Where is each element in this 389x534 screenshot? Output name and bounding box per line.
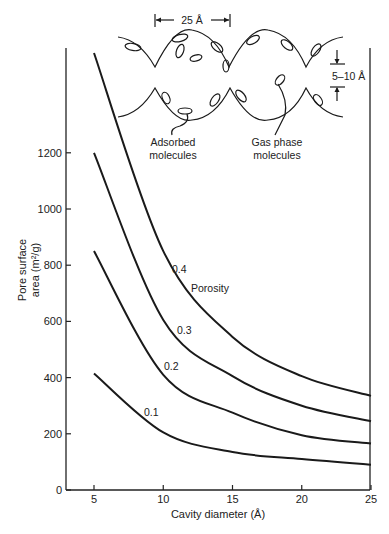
x-ticks: 510152025: [91, 485, 377, 505]
molecule-ellipse: [234, 88, 248, 103]
y-tick-label: 1200: [38, 147, 62, 159]
axes: [66, 48, 370, 490]
gas-label-line1: Gas phase: [252, 136, 303, 148]
molecule-ellipse: [189, 54, 202, 63]
cavity-bottom-wall: [118, 88, 343, 120]
curves: [94, 53, 371, 465]
y-tick-label: 800: [44, 259, 62, 271]
curve-porosity-0.3: [94, 153, 371, 421]
x-tick-label: 10: [157, 493, 169, 505]
molecule-ellipse: [178, 108, 192, 114]
adsorbed-leader-line: [172, 114, 188, 135]
gas-label-line2: molecules: [253, 149, 300, 161]
x-axis-title: Cavity diameter (Å): [171, 508, 265, 520]
molecule-ellipse: [174, 43, 185, 59]
gas-leader-line: [275, 84, 286, 135]
curve-label-0.4: 0.4: [172, 263, 187, 275]
y-tick-label: 1000: [38, 203, 62, 215]
molecule-ellipse: [160, 91, 171, 105]
adsorbed-label-line2: molecules: [149, 149, 196, 161]
x-tick-label: 20: [296, 493, 308, 505]
adsorbed-label-line1: Adsorbed: [151, 136, 196, 148]
molecule-ellipse: [279, 38, 294, 52]
molecule-ellipse: [245, 33, 261, 46]
arrowheads: [156, 18, 340, 93]
svg-text:Pore surface: Pore surface: [16, 239, 28, 301]
cavity-diagram: [118, 14, 345, 135]
legend-title-porosity: Porosity: [191, 282, 230, 294]
arrowhead-down: [335, 59, 340, 64]
arrowhead-left: [156, 18, 161, 23]
window-dimension-label: 5–10 Å: [332, 70, 365, 82]
curve-label-0.3: 0.3: [177, 324, 192, 336]
x-tick-label: 25: [365, 493, 377, 505]
y-axis-title: Pore surface area (m²/g): [16, 239, 41, 301]
width-dimension-label: 25 Å: [181, 14, 203, 26]
curve-label-0.2: 0.2: [164, 360, 179, 372]
arrowhead-right: [224, 18, 229, 23]
y-tick-label: 600: [44, 315, 62, 327]
molecule-ellipse: [208, 92, 222, 107]
curve-porosity-0.2: [94, 251, 371, 444]
y-tick-label: 0: [56, 484, 62, 496]
y-tick-label: 200: [44, 428, 62, 440]
x-tick-label: 15: [226, 493, 238, 505]
y-tick-label: 400: [44, 372, 62, 384]
svg-text:area (m²/g): area (m²/g): [29, 243, 41, 297]
arrowhead-up: [335, 87, 340, 92]
curve-porosity-0.1: [94, 373, 371, 464]
molecule-ellipse: [309, 42, 323, 57]
cavity-top-wall: [118, 30, 343, 67]
curve-porosity-0.4: [94, 53, 371, 396]
molecule-ellipse: [312, 93, 325, 107]
curve-label-0.1: 0.1: [144, 406, 159, 418]
molecule-ellipse: [273, 73, 286, 87]
porosity-chart: 020040060080010001200 510152025 Cavity d…: [0, 0, 389, 534]
x-tick-label: 5: [91, 493, 97, 505]
